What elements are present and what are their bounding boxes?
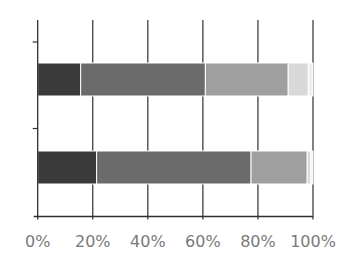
bar-segment	[205, 63, 288, 96]
bar-segment	[38, 151, 97, 184]
axes	[33, 20, 313, 220]
bar-segment	[311, 151, 313, 184]
bar-segment	[288, 63, 308, 96]
x-tick-label: 80%	[240, 232, 276, 251]
stacked-bar-chart: 0%20%40%60%80%100%	[0, 0, 348, 265]
bar-segment	[97, 151, 251, 184]
x-tick-label: 0%	[25, 232, 50, 251]
bar-segment	[81, 63, 206, 96]
gridlines	[93, 20, 313, 220]
x-tick-label: 20%	[75, 232, 111, 251]
x-tick-label: 100%	[290, 232, 336, 251]
bar-segment	[251, 151, 307, 184]
x-tick-label: 40%	[130, 232, 166, 251]
bar-segment	[307, 151, 311, 184]
bar-segment	[308, 63, 313, 96]
x-tick-labels: 0%20%40%60%80%100%	[25, 232, 336, 251]
bar-segment	[38, 63, 81, 96]
x-tick-label: 60%	[185, 232, 221, 251]
bars	[38, 63, 313, 184]
